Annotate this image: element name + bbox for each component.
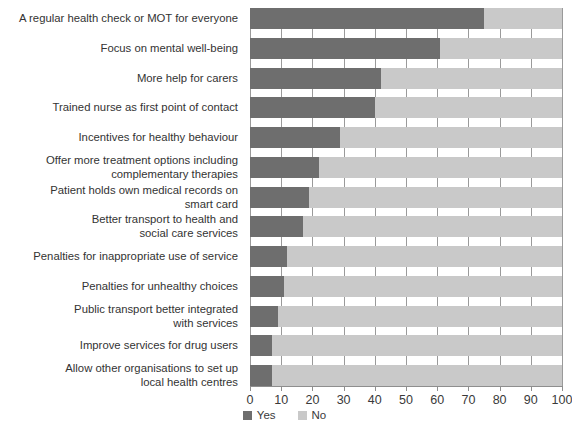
x-tick-label: 30 — [337, 393, 351, 407]
category-label: Incentives for healthy behaviour — [78, 131, 238, 144]
bar-segment-yes — [250, 187, 309, 208]
bar-row — [250, 365, 562, 386]
category-label: More help for carers — [137, 72, 238, 85]
legend-swatch-icon — [243, 411, 252, 420]
bar-segment-no — [440, 38, 562, 59]
x-tick-60 — [437, 386, 438, 391]
x-tick-label: 40 — [368, 393, 382, 407]
bar-segment-yes — [250, 276, 284, 297]
bar-row — [250, 127, 562, 148]
x-tick-100 — [562, 386, 563, 391]
x-tick-label: 50 — [399, 393, 413, 407]
x-tick-label: 70 — [461, 393, 475, 407]
bar-segment-yes — [250, 306, 278, 327]
bar-segment-yes — [250, 97, 375, 118]
bar-row — [250, 216, 562, 237]
x-tick-30 — [344, 386, 345, 391]
category-label: A regular health check or MOT for everyo… — [19, 12, 238, 25]
x-tick-label: 20 — [305, 393, 319, 407]
bar-row — [250, 8, 562, 29]
x-tick-50 — [406, 386, 407, 391]
category-label: Penalties for inappropriate use of servi… — [33, 250, 238, 263]
category-label: Public transport better integrated with … — [74, 303, 238, 329]
x-tick-20 — [312, 386, 313, 391]
plot-area — [250, 8, 562, 386]
legend-swatch-icon — [298, 411, 307, 420]
x-tick-70 — [468, 386, 469, 391]
bar-row — [250, 38, 562, 59]
category-label: Allow other organisations to set up loca… — [65, 362, 238, 388]
bar-rows — [250, 8, 562, 386]
bar-segment-no — [287, 246, 562, 267]
category-label: Offer more treatment options including c… — [46, 154, 238, 180]
category-label: Better transport to health and social ca… — [92, 213, 238, 239]
x-tick-10 — [281, 386, 282, 391]
x-tick-label: 90 — [524, 393, 538, 407]
bar-segment-yes — [250, 157, 319, 178]
bar-segment-no — [340, 127, 562, 148]
gridline-100 — [562, 8, 563, 386]
bar-segment-no — [278, 306, 562, 327]
legend-label: No — [312, 409, 327, 421]
x-tick-label: 100 — [552, 393, 572, 407]
bar-segment-no — [381, 68, 562, 89]
category-label: Penalties for unhealthy choices — [82, 280, 238, 293]
bar-segment-yes — [250, 216, 303, 237]
bar-segment-yes — [250, 68, 381, 89]
x-tick-0 — [250, 386, 251, 391]
bar-segment-no — [375, 97, 562, 118]
x-tick-80 — [500, 386, 501, 391]
bar-segment-no — [284, 276, 562, 297]
chart-legend: YesNo — [0, 409, 569, 421]
x-tick-label: 80 — [493, 393, 507, 407]
legend-item-no: No — [298, 409, 327, 421]
bar-segment-yes — [250, 365, 272, 386]
bar-segment-yes — [250, 246, 287, 267]
bar-row — [250, 276, 562, 297]
bar-segment-yes — [250, 127, 340, 148]
bar-segment-no — [484, 8, 562, 29]
x-tick-90 — [531, 386, 532, 391]
bar-row — [250, 246, 562, 267]
category-label: Improve services for drug users — [80, 339, 238, 352]
bar-row — [250, 157, 562, 178]
bar-segment-no — [272, 365, 562, 386]
x-tick-label: 10 — [274, 393, 288, 407]
bar-segment-yes — [250, 38, 440, 59]
bar-segment-yes — [250, 8, 484, 29]
bar-row — [250, 68, 562, 89]
legend-label: Yes — [257, 409, 276, 421]
bar-row — [250, 306, 562, 327]
x-tick-40 — [375, 386, 376, 391]
legend-item-yes: Yes — [243, 409, 276, 421]
bar-segment-no — [272, 335, 562, 356]
bar-row — [250, 187, 562, 208]
bar-segment-no — [303, 216, 562, 237]
x-tick-label: 0 — [247, 393, 254, 407]
bar-segment-no — [319, 157, 562, 178]
bar-row — [250, 335, 562, 356]
category-label-column: A regular health check or MOT for everyo… — [0, 8, 246, 386]
bar-row — [250, 97, 562, 118]
bar-segment-yes — [250, 335, 272, 356]
bar-segment-no — [309, 187, 562, 208]
category-label: Focus on mental well-being — [100, 42, 238, 55]
category-label: Patient holds own medical records on sma… — [50, 184, 238, 210]
category-label: Trained nurse as first point of contact — [53, 101, 238, 114]
x-tick-label: 60 — [430, 393, 444, 407]
